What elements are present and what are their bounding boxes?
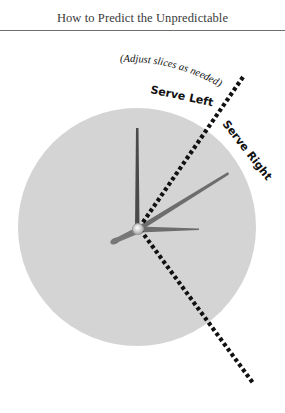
- serve-clock-diagram: (Adjust slices as needed) Serve Left Ser…: [0, 0, 285, 413]
- serve-left-label: Serve Left: [149, 83, 214, 109]
- clock-hub: [133, 224, 144, 235]
- adjust-annotation: (Adjust slices as needed): [120, 53, 225, 90]
